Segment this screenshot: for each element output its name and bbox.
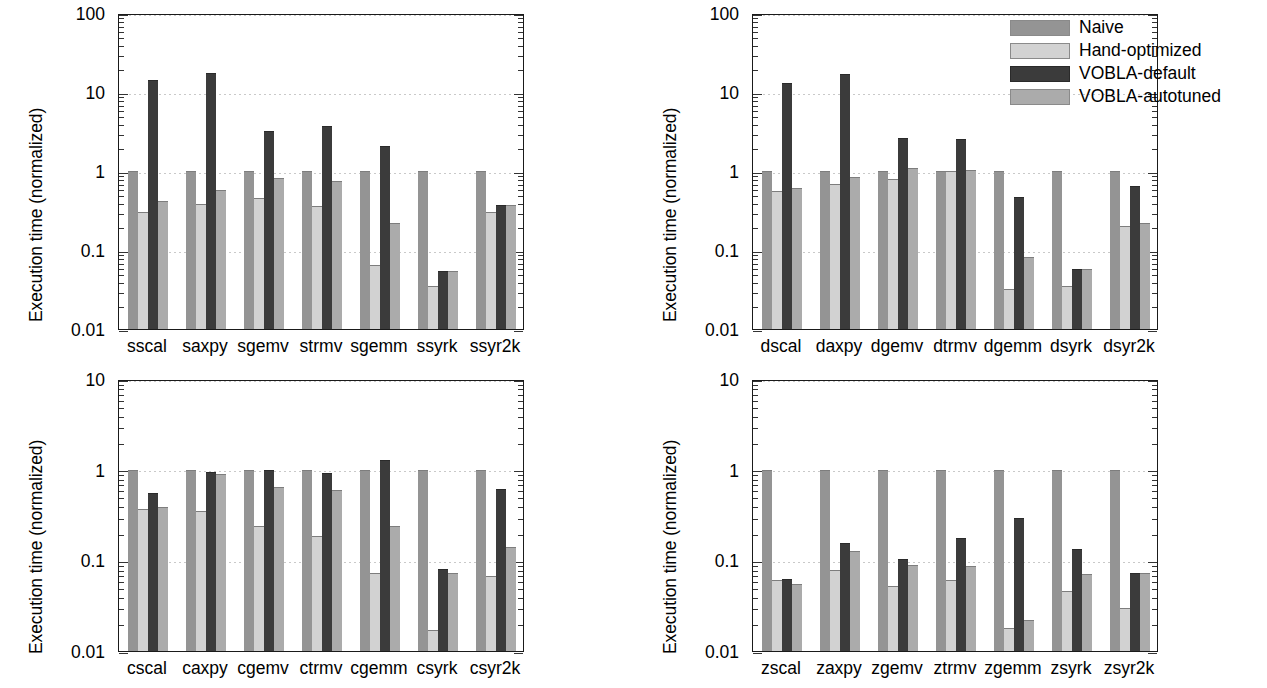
x-tick-label: ztrmv [934, 658, 977, 679]
bar [506, 205, 516, 329]
bar [148, 493, 158, 652]
bar [496, 205, 506, 329]
bar [360, 470, 370, 651]
bar [418, 470, 428, 651]
y-tick-label: 0.01 [0, 642, 105, 663]
x-tick-label: strmv [300, 336, 343, 357]
bar [1130, 186, 1140, 329]
y-tick-label: 0.01 [0, 320, 105, 341]
bar [878, 171, 888, 329]
bar [994, 171, 1004, 329]
y-tick-label: 10 [0, 370, 105, 391]
x-tick-label: sgemv [237, 336, 289, 357]
legend-item[interactable]: VOBLA-default [1010, 63, 1221, 84]
bar [820, 470, 830, 651]
legend-label: Hand-optimized [1079, 42, 1202, 60]
bar [1140, 573, 1150, 651]
bar [254, 198, 264, 329]
y-axis-major-tick [1148, 331, 1157, 332]
bar [390, 526, 400, 651]
bar [476, 470, 486, 651]
y-tick-label: 1 [0, 162, 105, 183]
bar [138, 509, 148, 651]
bars-layer [119, 381, 523, 651]
bar [772, 191, 782, 329]
bar [138, 212, 148, 329]
y-tick-label: 0.1 [633, 551, 739, 572]
legend-label: VOBLA-default [1079, 65, 1196, 83]
legend-item[interactable]: VOBLA-autotuned [1010, 86, 1221, 107]
x-tick-label: sgemm [350, 336, 407, 357]
bar [1062, 591, 1072, 651]
y-tick-label: 0.1 [633, 241, 739, 262]
bar [1072, 269, 1082, 329]
bar [792, 584, 802, 651]
x-tick-label: dscal [761, 336, 802, 357]
bar [370, 265, 380, 329]
bar [158, 201, 168, 329]
bar [840, 543, 850, 651]
bar [898, 138, 908, 329]
x-tick-label: zsyr2k [1104, 658, 1155, 679]
bar [994, 470, 1004, 651]
bar [322, 473, 332, 651]
bar [762, 171, 772, 329]
x-tick-label: dgemm [984, 336, 1042, 357]
y-tick-label: 0.1 [0, 551, 105, 572]
y-axis-major-tick [514, 653, 523, 654]
bar [186, 171, 196, 329]
bar [1120, 608, 1130, 651]
bar [496, 489, 506, 652]
x-tick-label: zsyrk [1051, 658, 1092, 679]
bar [878, 470, 888, 651]
bar [312, 536, 322, 651]
x-tick-label: daxpy [816, 336, 863, 357]
legend-item[interactable]: Naive [1010, 17, 1221, 38]
x-tick-label: cgemv [237, 658, 289, 679]
bar [216, 190, 226, 329]
legend-item[interactable]: Hand-optimized [1010, 40, 1221, 61]
chart-panel-top-right: Execution time (normalized)0.010.1110100… [633, 0, 1267, 366]
x-tick-label: dtrmv [933, 336, 977, 357]
bar [966, 566, 976, 651]
plot-area [752, 380, 1158, 652]
bar [956, 538, 966, 651]
bar [428, 630, 438, 651]
y-tick-label: 100 [633, 4, 739, 25]
y-tick-label: 10 [0, 83, 105, 104]
bar [1024, 257, 1034, 329]
plot-area [118, 14, 524, 330]
figure-grid: Execution time (normalized)0.010.1110100… [0, 0, 1267, 688]
x-tick-label: dsyrk [1050, 336, 1092, 357]
bar [274, 487, 284, 651]
y-axis-major-tick [753, 331, 762, 332]
bar [302, 470, 312, 651]
y-tick-label: 0.01 [633, 642, 739, 663]
bar [1052, 470, 1062, 651]
bar [782, 579, 792, 651]
bar [820, 171, 830, 329]
bar [312, 206, 322, 329]
bar [486, 212, 496, 329]
bar [380, 146, 390, 329]
bar [1004, 289, 1014, 329]
x-tick-label: ssyrk [417, 336, 458, 357]
bar [206, 73, 216, 329]
bar [1082, 269, 1092, 329]
bar [438, 271, 448, 329]
x-tick-label: sscal [127, 336, 167, 357]
bar [128, 470, 138, 651]
bar [936, 171, 946, 329]
x-tick-label: zaxpy [816, 658, 862, 679]
bar [946, 580, 956, 651]
legend: NaiveHand-optimizedVOBLA-defaultVOBLA-au… [1010, 17, 1221, 107]
x-tick-label: cscal [127, 658, 167, 679]
bar [254, 526, 264, 651]
bar [448, 271, 458, 329]
legend-swatch-icon [1010, 89, 1070, 105]
bar [888, 586, 898, 651]
bar [850, 551, 860, 651]
bar [830, 184, 840, 329]
bar [792, 188, 802, 329]
bar [762, 470, 772, 651]
